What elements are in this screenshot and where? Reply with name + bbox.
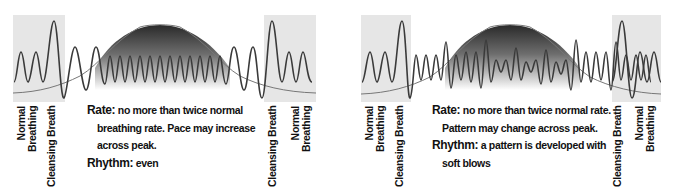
rhythm-text: even (136, 157, 159, 169)
label-breathing: Breathing (645, 106, 656, 152)
label-cleansing-breath-left: Cleansing Breath (394, 105, 405, 187)
rate-line: Rate: no more than twice normal (87, 102, 255, 120)
breathing-description: Rate: no more than twice normal rate. Pa… (432, 102, 611, 172)
diagram-patterned-rhythm: Normal Breathing Cleansing Breath Cleans… (340, 0, 677, 196)
rhythm-line: Rhythm: a pattern is developed with (432, 137, 611, 155)
rate-text-3: across peak. (87, 137, 255, 155)
rate-text-2: Pattern may change across peak. (432, 120, 611, 138)
rate-text-2: breathing rate. Pace may increase (87, 120, 255, 138)
breathing-description: Rate: no more than twice normal breathin… (87, 102, 255, 172)
breathing-waveform-chart (0, 0, 340, 110)
label-breathing: Breathing (375, 106, 386, 152)
rhythm-line: Rhythm: even (87, 155, 255, 173)
label-normal-breathing-right: Normal Breathing (634, 106, 656, 152)
label-cleansing-text: Cleansing Breath (267, 105, 278, 187)
label-cleansing-breath-right: Cleansing Breath (267, 105, 278, 187)
label-normal-breathing-right: Normal Breathing (290, 106, 312, 152)
rate-text-1: no more than twice normal rate. (463, 104, 611, 116)
label-normal-breathing-left: Normal Breathing (364, 106, 386, 152)
rate-label: Rate: (432, 103, 460, 117)
rhythm-label: Rhythm: (432, 138, 478, 152)
rate-text-1: no more than twice normal (118, 104, 243, 116)
label-cleansing-text: Cleansing Breath (612, 105, 623, 187)
rhythm-label: Rhythm: (87, 156, 133, 170)
label-cleansing-breath-right: Cleansing Breath (612, 105, 623, 187)
normal-breathing-zone-left (13, 15, 65, 102)
label-cleansing-text: Cleansing Breath (394, 105, 405, 187)
breathing-waveform-chart (340, 0, 677, 110)
rhythm-text-2: soft blows (432, 155, 611, 173)
label-breathing: Breathing (301, 106, 312, 152)
label-cleansing-text: Cleansing Breath (46, 105, 57, 187)
normal-breathing-zone-right (264, 15, 316, 102)
rate-label: Rate: (87, 103, 115, 117)
rate-line: Rate: no more than twice normal rate. (432, 102, 611, 120)
diagram-even-rhythm: Normal Breathing Cleansing Breath Cleans… (0, 0, 340, 196)
label-cleansing-breath-left: Cleansing Breath (46, 105, 57, 187)
rhythm-text-1: a pattern is developed with (481, 139, 606, 151)
label-breathing: Breathing (27, 106, 38, 152)
label-normal-breathing-left: Normal Breathing (16, 106, 38, 152)
